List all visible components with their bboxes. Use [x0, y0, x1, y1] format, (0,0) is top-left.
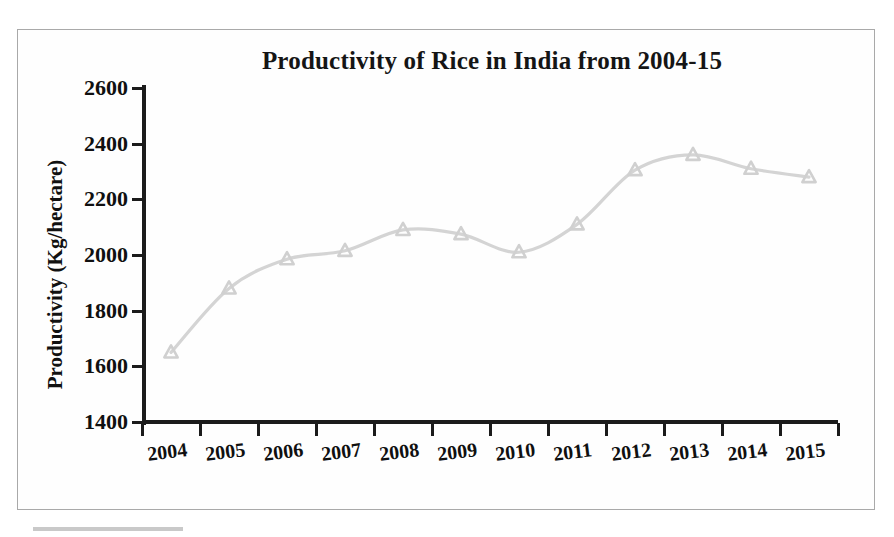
x-axis-tick-label: 2006: [262, 438, 305, 466]
y-axis-tick: [132, 143, 144, 146]
y-axis-tick: [132, 87, 144, 90]
y-axis-tick-label: 2000: [48, 244, 128, 266]
x-axis-tick: [431, 423, 434, 436]
x-axis-tick-label: 2009: [436, 438, 479, 466]
x-axis-tick-label: 2015: [784, 438, 827, 466]
x-axis-tick-label: 2004: [146, 438, 189, 466]
x-axis-tick: [547, 423, 550, 436]
x-axis-tick: [779, 423, 782, 436]
y-axis-title: Productivity (Kg/hectare): [43, 115, 68, 435]
y-axis-tick-label: 2600: [48, 77, 128, 99]
x-axis-tick: [199, 423, 202, 436]
x-axis-tick: [257, 423, 260, 436]
x-axis-tick: [141, 423, 144, 436]
x-axis-tick: [663, 423, 666, 436]
scan-artifact-line: [33, 527, 183, 531]
x-axis-tick: [837, 423, 840, 436]
x-axis-tick: [315, 423, 318, 436]
y-axis-tick: [132, 365, 144, 368]
x-axis-tick-label: 2008: [378, 438, 421, 466]
x-axis-tick-label: 2012: [610, 438, 653, 466]
x-axis-tick: [373, 423, 376, 436]
x-axis-tick: [489, 423, 492, 436]
y-axis-tick-label: 1600: [48, 355, 128, 377]
y-axis-tick: [132, 198, 144, 201]
y-axis-tick: [132, 254, 144, 257]
x-axis-tick-label: 2007: [320, 438, 363, 466]
y-axis-tick-label: 1400: [48, 411, 128, 433]
chart-title: Productivity of Rice in India from 2004-…: [142, 47, 842, 75]
x-axis-tick-label: 2010: [494, 438, 537, 466]
x-axis-tick: [721, 423, 724, 436]
y-axis-tick-label: 2400: [48, 133, 128, 155]
x-axis-tick-label: 2014: [726, 438, 769, 466]
x-axis-tick-label: 2013: [668, 438, 711, 466]
y-axis-tick-label: 2200: [48, 188, 128, 210]
chart-figure: Productivity of Rice in India from 2004-…: [0, 0, 894, 537]
y-axis-tick-label: 1800: [48, 300, 128, 322]
x-axis-tick-label: 2011: [552, 438, 593, 466]
y-axis-tick: [132, 310, 144, 313]
x-axis-tick: [605, 423, 608, 436]
x-axis-tick-label: 2005: [204, 438, 247, 466]
